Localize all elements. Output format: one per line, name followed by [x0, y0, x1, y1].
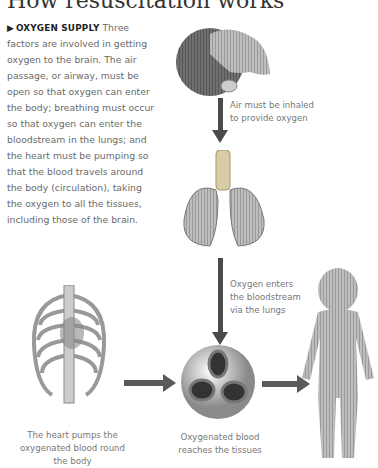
arrow-head-to-lungs-icon [218, 98, 223, 131]
arrow-lungs-to-blood-icon [218, 258, 223, 333]
caption-inhale: Air must be inhaled to provide oxygen [230, 99, 314, 125]
lungs-illustration [180, 150, 270, 250]
caption-heart: The heart pumps the oxygenated blood rou… [15, 429, 130, 468]
intro-lead: OXYGEN SUPPLY [16, 23, 100, 33]
intro-paragraph: ▶OXYGEN SUPPLY Three factors are involve… [7, 20, 157, 228]
page-title: How resuscitation works [7, 0, 284, 13]
arrow-blood-to-body-icon [262, 381, 298, 387]
head-illustration [170, 14, 270, 98]
ribcage-illustration [12, 285, 127, 405]
intro-body: Three factors are involved in getting ox… [7, 22, 154, 225]
caption-bloodstream: Oxygen enters the bloodstream via the lu… [230, 278, 301, 317]
triangle-marker-icon: ▶ [7, 23, 14, 33]
arrow-heart-to-blood-icon [124, 380, 164, 386]
caption-tissues: Oxygenated blood reaches the tissues [170, 431, 270, 457]
blood-cells-illustration [180, 344, 256, 420]
child-illustration [296, 268, 378, 463]
